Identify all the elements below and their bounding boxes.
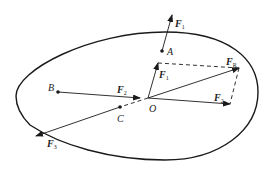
point-b-label: B	[48, 82, 54, 93]
point-c-dot	[118, 105, 122, 109]
force-f3-label: F3	[46, 138, 57, 150]
resultant-fr-label: FR	[225, 56, 237, 68]
point-a-dot	[160, 49, 164, 53]
force-f3-dashed-oc	[120, 98, 148, 107]
point-c-label: C	[117, 113, 124, 124]
force-f1-at-a-label: F1	[174, 18, 185, 30]
point-a-label: A	[166, 46, 174, 57]
force-f2-on-bo-label: F2	[116, 84, 127, 96]
point-b-dot	[56, 90, 60, 94]
force-f3-at-c-arrow	[36, 107, 120, 136]
force-f1-at-o-arrow	[148, 63, 158, 98]
parallelogram-dashed-right	[230, 68, 239, 104]
force-f1-at-o-label: F1	[158, 69, 169, 81]
force-diagram: A B C O F1 F1 F2 F2 FR F3	[0, 0, 268, 174]
force-f2-line-bo	[58, 92, 140, 98]
force-f2-at-o-label: F2	[213, 92, 224, 104]
point-o-label: O	[149, 103, 156, 114]
